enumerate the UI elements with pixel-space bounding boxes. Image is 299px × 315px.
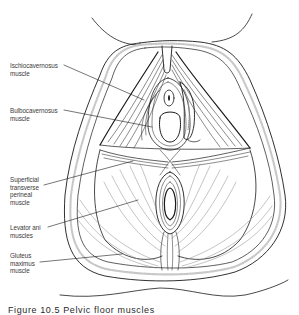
label-superficial-transverse-perineal: Superficial transverse perineal muscle <box>10 176 39 206</box>
figure-caption: Figure 10.5 Pelvic floor muscles <box>8 305 155 315</box>
label-ischiocavernosus: Ischiocavernosus muscle <box>10 62 58 77</box>
label-bulbocavernosus: Bulbocavernosus muscle <box>10 107 58 122</box>
label-gluteus-maximus: Gluteus maximus muscle <box>10 252 35 275</box>
label-levator-ani: Levator ani muscles <box>10 224 41 239</box>
